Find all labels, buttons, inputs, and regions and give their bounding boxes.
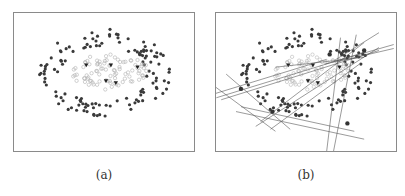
outer-point xyxy=(293,37,296,40)
outer-point xyxy=(54,90,57,93)
hyperplane-line xyxy=(261,43,365,122)
outer-point xyxy=(338,50,341,53)
subplot-a xyxy=(13,12,195,152)
inner-point xyxy=(113,56,116,59)
outer-point xyxy=(150,49,153,52)
outer-point xyxy=(83,37,86,40)
outer-point xyxy=(104,114,107,117)
outer-point xyxy=(84,46,87,49)
inner-point xyxy=(311,74,314,77)
inner-point xyxy=(95,83,98,86)
inner-point xyxy=(113,76,116,79)
inner-point xyxy=(98,80,101,83)
outer-point xyxy=(265,92,268,95)
outer-point xyxy=(320,41,323,44)
hyperplane-line xyxy=(241,107,354,132)
inner-point xyxy=(88,55,91,58)
outer-point xyxy=(109,104,112,107)
outer-point xyxy=(306,114,309,117)
outer-point xyxy=(252,56,255,59)
caption-b: (b) xyxy=(286,168,326,182)
outer-point xyxy=(266,59,269,62)
inner-point xyxy=(128,75,131,78)
outer-point xyxy=(357,76,360,79)
outer-point xyxy=(116,99,119,102)
outer-point xyxy=(294,106,297,109)
outer-point xyxy=(256,90,259,93)
scatter-plot-a xyxy=(14,13,194,151)
outer-point xyxy=(64,59,67,62)
inner-point xyxy=(138,69,141,72)
outer-point xyxy=(264,99,267,102)
outer-point xyxy=(281,99,284,102)
inner-point xyxy=(118,65,121,68)
outer-point xyxy=(92,106,95,109)
outer-point xyxy=(247,63,250,66)
outer-point xyxy=(241,72,244,75)
outer-point xyxy=(55,95,58,98)
outer-point xyxy=(89,45,92,48)
outer-point xyxy=(133,101,136,104)
outer-point xyxy=(292,31,295,34)
outer-point xyxy=(242,64,245,67)
outer-point xyxy=(152,72,155,75)
outer-point xyxy=(300,44,303,47)
outer-point xyxy=(319,33,322,36)
inner-point xyxy=(75,79,78,82)
outer-point xyxy=(142,91,145,94)
outer-point xyxy=(294,113,297,116)
outer-point xyxy=(291,45,294,48)
outer-point xyxy=(310,28,313,31)
outer-point xyxy=(118,41,121,44)
hyperplane-line xyxy=(216,59,327,94)
outer-point xyxy=(284,109,287,112)
outer-point xyxy=(53,68,56,71)
outer-point xyxy=(261,49,264,52)
outer-point xyxy=(136,50,139,53)
vertex-point xyxy=(270,109,274,113)
outer-point xyxy=(98,113,101,116)
outer-point xyxy=(167,81,170,84)
outer-point xyxy=(246,67,249,70)
inner-point xyxy=(131,69,134,72)
outer-point xyxy=(149,61,152,64)
outer-point xyxy=(129,108,132,111)
outer-point xyxy=(128,103,131,106)
outer-point xyxy=(168,68,171,71)
outer-point xyxy=(56,41,59,44)
inner-point xyxy=(87,83,90,86)
outer-point xyxy=(337,98,340,101)
outer-point xyxy=(71,50,74,53)
outer-point xyxy=(141,88,144,91)
outer-point xyxy=(272,106,275,109)
outer-point xyxy=(335,101,338,104)
outer-point xyxy=(157,62,160,65)
outer-point xyxy=(108,28,111,31)
outer-point xyxy=(159,52,162,55)
outer-point xyxy=(57,102,60,105)
outer-point xyxy=(96,35,99,38)
outer-point xyxy=(357,87,360,90)
outer-point xyxy=(346,45,349,48)
outer-point xyxy=(59,49,62,52)
outer-point xyxy=(270,45,273,48)
outer-point xyxy=(155,51,158,54)
outer-point xyxy=(273,50,276,53)
inner-point xyxy=(285,80,288,83)
outer-point xyxy=(116,36,119,39)
outer-point xyxy=(50,56,53,59)
inner-point xyxy=(104,54,107,57)
outer-point xyxy=(84,103,87,106)
outer-point xyxy=(297,44,300,47)
outer-point xyxy=(369,81,372,84)
vertex-point xyxy=(327,52,331,56)
outer-point xyxy=(91,37,94,40)
outer-point xyxy=(86,43,89,46)
inner-point xyxy=(137,78,140,81)
outer-point xyxy=(108,33,111,36)
inner-point xyxy=(117,84,120,87)
outer-point xyxy=(94,39,97,42)
outer-point xyxy=(354,72,357,75)
outer-point xyxy=(298,35,301,38)
inner-point xyxy=(110,85,113,88)
